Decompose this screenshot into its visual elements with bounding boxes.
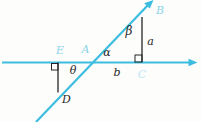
right-angle-mark-E [52, 64, 59, 71]
point-label-D: D [61, 93, 71, 106]
point-label-E: E [55, 44, 64, 57]
right-angle-mark-C [135, 55, 142, 62]
segment-label-a: a [147, 35, 154, 48]
angle-label-beta: β [125, 24, 133, 38]
segment-label-b: b [113, 66, 120, 79]
angle-label-theta: θ [70, 64, 77, 77]
point-label-A: A [81, 43, 90, 56]
point-label-C: C [138, 68, 147, 81]
angle-label-alpha: α [103, 46, 111, 59]
geometry-diagram: E A B C D θ α β a b [0, 0, 201, 122]
horizontal-line-arrowhead-icon [189, 59, 198, 67]
point-label-B: B [155, 4, 164, 17]
